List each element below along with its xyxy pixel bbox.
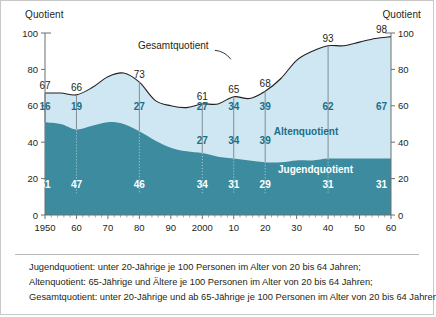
svg-text:27: 27 [197,101,209,112]
svg-text:66: 66 [71,82,83,93]
svg-text:60: 60 [27,100,38,111]
svg-text:Jugendquotient: Jugendquotient [278,164,354,175]
stacked-area-chart: 020406080100 020406080100 19506070809020… [1,23,435,238]
svg-text:34: 34 [228,101,240,112]
svg-text:16: 16 [39,101,51,112]
svg-text:65: 65 [228,84,240,95]
svg-text:34: 34 [228,135,240,146]
footnote-gesamtquotient: Gesamtquotient: unter 20-Jährige und ab … [29,290,419,305]
svg-text:47: 47 [71,179,83,190]
footnote-divider [15,254,419,255]
svg-text:40: 40 [27,137,38,148]
area-series-group [45,37,391,215]
svg-text:10: 10 [228,222,239,233]
svg-text:46: 46 [134,179,146,190]
y-axis-label-right: Quotient [382,9,421,20]
svg-text:80: 80 [398,64,409,75]
svg-text:27: 27 [197,135,209,146]
svg-text:100: 100 [398,28,414,39]
svg-text:60: 60 [398,100,409,111]
svg-text:34: 34 [197,179,209,190]
svg-text:20: 20 [398,173,409,184]
svg-text:20: 20 [27,173,38,184]
svg-text:39: 39 [260,135,272,146]
svg-text:100: 100 [22,28,38,39]
svg-text:20: 20 [260,222,271,233]
svg-text:Altenquotient: Altenquotient [274,126,339,137]
svg-text:39: 39 [260,101,272,112]
svg-text:62: 62 [323,101,335,112]
svg-text:68: 68 [260,78,272,89]
svg-text:93: 93 [323,33,335,44]
svg-text:0: 0 [398,210,403,221]
svg-text:0: 0 [33,210,38,221]
svg-text:98: 98 [376,24,388,35]
svg-text:31: 31 [376,179,388,190]
svg-text:60: 60 [386,222,397,233]
y-axis-label-left: Quotient [25,9,64,20]
svg-text:60: 60 [71,222,82,233]
svg-text:90: 90 [166,222,177,233]
svg-text:67: 67 [376,101,388,112]
footnote-block: Jugendquotient: unter 20-Jährige je 100 … [29,260,419,305]
svg-text:27: 27 [134,101,146,112]
svg-text:70: 70 [103,222,114,233]
footnote-jugendquotient: Jugendquotient: unter 20-Jährige je 100 … [29,260,419,275]
svg-text:29: 29 [260,179,272,190]
y-axis-ticks-left: 020406080100 [22,28,45,221]
svg-text:73: 73 [134,69,146,80]
svg-text:Gesamtquotient: Gesamtquotient [138,40,209,51]
figure-container: Quotient Quotient 020406080100 020406080… [0,0,434,315]
svg-text:31: 31 [323,179,335,190]
chart-plot-area: 020406080100 020406080100 19506070809020… [1,23,435,238]
svg-text:30: 30 [291,222,302,233]
svg-text:31: 31 [228,179,240,190]
svg-text:67: 67 [39,80,51,91]
footnote-altenquotient: Altenquotient: 65-Jährige und Ältere je … [29,275,419,290]
svg-text:50: 50 [354,222,365,233]
svg-text:51: 51 [39,179,51,190]
y-axis-ticks-right: 020406080100 [391,28,414,221]
svg-text:19: 19 [71,101,83,112]
svg-text:1950: 1950 [34,222,55,233]
svg-text:80: 80 [134,222,145,233]
svg-text:2000: 2000 [192,222,213,233]
svg-text:80: 80 [27,64,38,75]
svg-text:40: 40 [323,222,334,233]
svg-text:40: 40 [398,137,409,148]
x-axis-ticks: 1950607080902000102030405060 [34,215,396,233]
